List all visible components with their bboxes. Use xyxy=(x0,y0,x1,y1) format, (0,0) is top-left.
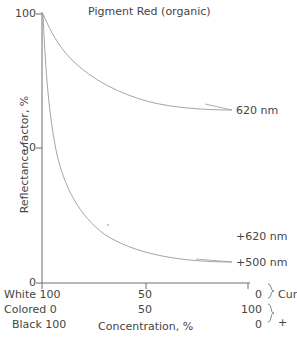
axis-row-label-black: Black 100 xyxy=(12,318,66,331)
curve-500nm xyxy=(43,14,232,262)
axis-mid-value-white: 50 xyxy=(125,288,165,301)
series-label-620nm: 620 nm xyxy=(236,104,278,117)
brace-curve xyxy=(268,284,274,298)
axis-end-value-colored: 100 xyxy=(222,303,262,316)
axis-row-label-colored: Colored 0 xyxy=(4,303,57,316)
x-axis-label: Concentration, % xyxy=(98,320,193,333)
axis-end-value-black: 0 xyxy=(222,318,262,331)
axis-row-label-white: White 100 xyxy=(4,288,60,301)
axis-mid-value-colored: 50 xyxy=(125,303,165,316)
y-tick-label-100: 100 xyxy=(6,7,36,20)
brace-label-curve: Curve xyxy=(278,288,297,301)
brace-plus xyxy=(268,304,274,322)
chart-canvas xyxy=(0,0,297,337)
stray-mark xyxy=(107,224,109,226)
brace-label-plus: + xyxy=(278,316,287,329)
series-label-plus-620nm: +620 nm xyxy=(236,230,287,243)
axis-end-value-white: 0 xyxy=(222,288,262,301)
y-tick-label-50: 50 xyxy=(6,141,36,154)
curve-620nm xyxy=(43,14,232,110)
chart-title: Pigment Red (organic) xyxy=(88,5,211,18)
series-label-plus-500nm: +500 nm xyxy=(236,256,287,269)
y-axis-label: Reflectance factor, % xyxy=(18,95,31,215)
chart-figure: Pigment Red (organic) Reflectance factor… xyxy=(0,0,297,337)
